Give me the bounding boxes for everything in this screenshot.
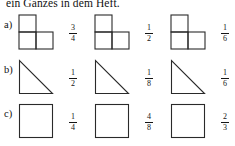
- figure-item: 1 2: [94, 12, 166, 57]
- square-shape-icon: [170, 103, 212, 145]
- fraction-label: 2 3: [217, 112, 233, 132]
- figure-item: 4 8: [94, 101, 166, 146]
- right-triangle-shape-icon: [170, 59, 212, 101]
- figure-item: 1 6: [170, 57, 235, 102]
- fraction-numerator: 1: [217, 68, 233, 77]
- fraction-numerator: 2: [217, 112, 233, 121]
- fraction-label: 1 4: [65, 112, 81, 132]
- l-tromino-shape-icon: [94, 14, 136, 56]
- exercise-row-a: a) 3 4: [0, 12, 235, 57]
- l-tromino-shape-icon: [18, 14, 60, 56]
- fraction-denominator: 8: [141, 79, 157, 88]
- fraction-denominator: 3: [217, 123, 233, 132]
- fraction-numerator: 1: [65, 112, 81, 121]
- fraction-label: 3 4: [65, 23, 81, 43]
- square-shape-icon: [18, 103, 60, 145]
- exercise-row-c: c) 1 4 4 8: [0, 101, 235, 146]
- right-triangle-shape-icon: [94, 59, 136, 101]
- fraction-denominator: 2: [141, 34, 157, 43]
- l-tromino-shape-icon: [170, 14, 212, 56]
- fraction-label: 1 8: [141, 68, 157, 88]
- fraction-label: 1 2: [65, 68, 81, 88]
- fraction-denominator: 6: [217, 34, 233, 43]
- row-label-b: b): [4, 64, 13, 75]
- fraction-denominator: 6: [217, 79, 233, 88]
- fraction-numerator: 1: [217, 23, 233, 32]
- fraction-denominator: 4: [65, 123, 81, 132]
- page-title: ein Ganzes in dem Heft.: [6, 0, 230, 10]
- exercise-row-b: b) 1 2 1 8: [0, 57, 235, 102]
- fraction-denominator: 4: [65, 34, 81, 43]
- figure-item: 1 8: [94, 57, 166, 102]
- fraction-denominator: 8: [141, 123, 157, 132]
- fraction-numerator: 4: [141, 112, 157, 121]
- figure-item: 3 4: [18, 12, 90, 57]
- fraction-numerator: 1: [65, 68, 81, 77]
- fraction-numerator: 1: [141, 68, 157, 77]
- fraction-label: 4 8: [141, 112, 157, 132]
- figure-item: 1 2: [18, 57, 90, 102]
- fraction-numerator: 3: [65, 23, 81, 32]
- figure-item: 1 4: [18, 101, 90, 146]
- fraction-label: 1 6: [217, 68, 233, 88]
- square-shape-icon: [94, 103, 136, 145]
- fraction-label: 1 6: [217, 23, 233, 43]
- figure-item: 2 3: [170, 101, 235, 146]
- row-label-a: a): [4, 19, 12, 30]
- fraction-label: 1 2: [141, 23, 157, 43]
- right-triangle-shape-icon: [18, 59, 60, 101]
- worksheet-page: ein Ganzes in dem Heft. a) 3 4: [0, 0, 235, 146]
- fraction-numerator: 1: [141, 23, 157, 32]
- figure-item: 1 6: [170, 12, 235, 57]
- row-label-c: c): [4, 108, 12, 119]
- fraction-denominator: 2: [65, 79, 81, 88]
